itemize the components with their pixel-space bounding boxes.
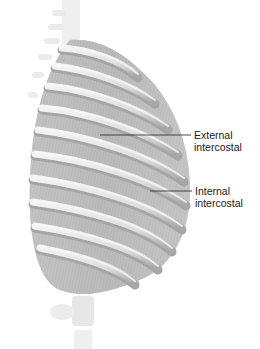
internal-intercostal-label: Internal intercostal bbox=[195, 185, 243, 209]
internal-label-line1: Internal bbox=[195, 185, 243, 197]
external-intercostal-label: External intercostal bbox=[194, 129, 242, 153]
ribcage-illustration bbox=[0, 0, 260, 349]
lower-spine bbox=[50, 296, 94, 349]
external-label-line2: intercostal bbox=[194, 141, 242, 153]
internal-label-line2: intercostal bbox=[195, 197, 243, 209]
external-label-line1: External bbox=[194, 129, 242, 141]
